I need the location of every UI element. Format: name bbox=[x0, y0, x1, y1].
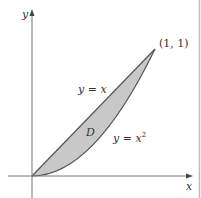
y-axis-arrow-icon bbox=[30, 9, 35, 16]
region-label: D bbox=[85, 126, 95, 139]
line-label-rhs: x bbox=[100, 83, 107, 96]
point-label: (1, 1) bbox=[159, 37, 189, 50]
line-label-eq: = bbox=[84, 83, 100, 96]
parabola-label: y = x2 bbox=[112, 131, 146, 145]
line-y-equals-x bbox=[32, 49, 155, 176]
x-axis-arrow-icon bbox=[186, 174, 193, 179]
y-axis-label: y bbox=[21, 8, 29, 21]
line-label: y = x bbox=[77, 83, 107, 96]
region-diagram: y x (1, 1) y = x D y = x2 bbox=[0, 0, 201, 198]
parabola-label-eq: = bbox=[119, 132, 135, 145]
parabola-label-exponent: 2 bbox=[142, 131, 146, 139]
x-axis-label: x bbox=[186, 180, 193, 193]
